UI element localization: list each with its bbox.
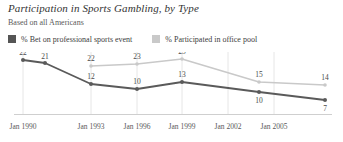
data-point [89, 64, 93, 68]
x-tick-label: Jan 1996 [124, 122, 151, 131]
chart-legend: % Bet on professional sports event % Par… [8, 33, 277, 45]
gridlines [23, 52, 274, 114]
data-label: 23 [133, 52, 141, 61]
legend-label-bet-professional: % Bet on professional sports event [21, 35, 132, 44]
data-point [21, 58, 25, 62]
data-label: 25 [178, 52, 186, 56]
legend-label-office-pool: % Participated in office pool [165, 35, 257, 44]
data-point [89, 82, 93, 86]
x-axis-tick-labels: Jan 1990 Jan 1993 Jan 1996 Jan 1999 Jan … [10, 122, 288, 131]
legend-swatch-dark-icon [8, 35, 16, 43]
legend-item-office-pool[interactable]: % Participated in office pool [152, 35, 257, 44]
data-point [135, 62, 139, 66]
data-label: 10 [133, 77, 141, 86]
page-title: Participation in Sports Gambling, by Typ… [8, 2, 199, 14]
data-point [323, 98, 327, 102]
legend-swatch-light-icon [152, 35, 160, 43]
series-line-bet-professional [23, 60, 325, 100]
series-line-office-pool [91, 59, 325, 85]
chart-plot-area: 22 21 12 10 13 10 7 22 23 25 15 14 Jan 1… [0, 52, 343, 142]
x-tick-label: Jan 2005 [261, 122, 288, 131]
x-tick-label: Jan 1993 [78, 122, 105, 131]
data-point [257, 80, 261, 84]
data-label: 12 [87, 72, 95, 81]
data-point [180, 80, 184, 84]
x-tick-label: Jan 1990 [10, 122, 37, 131]
data-point [180, 57, 184, 61]
series-points-office-pool [89, 57, 327, 87]
legend-item-bet-professional[interactable]: % Bet on professional sports event [8, 35, 132, 44]
data-point [257, 90, 261, 94]
data-label: 22 [87, 54, 95, 63]
x-tick-label: Jan 2002 [215, 122, 242, 131]
chart-subtitle: Based on all Americans [8, 18, 84, 27]
data-point [135, 87, 139, 91]
data-label: 21 [41, 52, 49, 61]
data-label: 15 [255, 70, 263, 79]
data-point [43, 61, 47, 65]
data-label: 14 [321, 73, 329, 82]
data-label: 7 [323, 104, 327, 113]
line-chart-svg: 22 21 12 10 13 10 7 22 23 25 15 14 Jan 1… [0, 52, 343, 142]
data-point [323, 83, 327, 87]
x-tick-label: Jan 1999 [169, 122, 196, 131]
data-label: 22 [19, 52, 27, 57]
data-label: 13 [178, 70, 186, 79]
data-label: 10 [255, 96, 263, 105]
chart-page: Participation in Sports Gambling, by Typ… [0, 0, 343, 142]
